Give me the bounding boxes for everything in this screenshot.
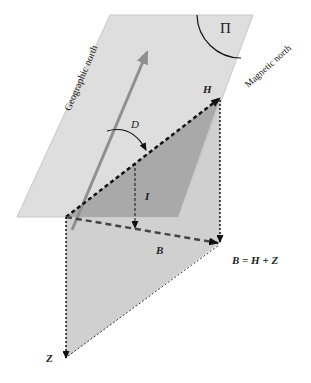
i-label: I (145, 190, 149, 202)
geomagnetic-diagram (0, 0, 311, 383)
d-label: D (131, 118, 139, 130)
h-label: H (203, 83, 212, 95)
b-label: B (156, 244, 163, 256)
plane-label: Π (220, 20, 231, 37)
equation-label: B = H + Z (232, 254, 278, 266)
z-label: Z (46, 352, 53, 364)
